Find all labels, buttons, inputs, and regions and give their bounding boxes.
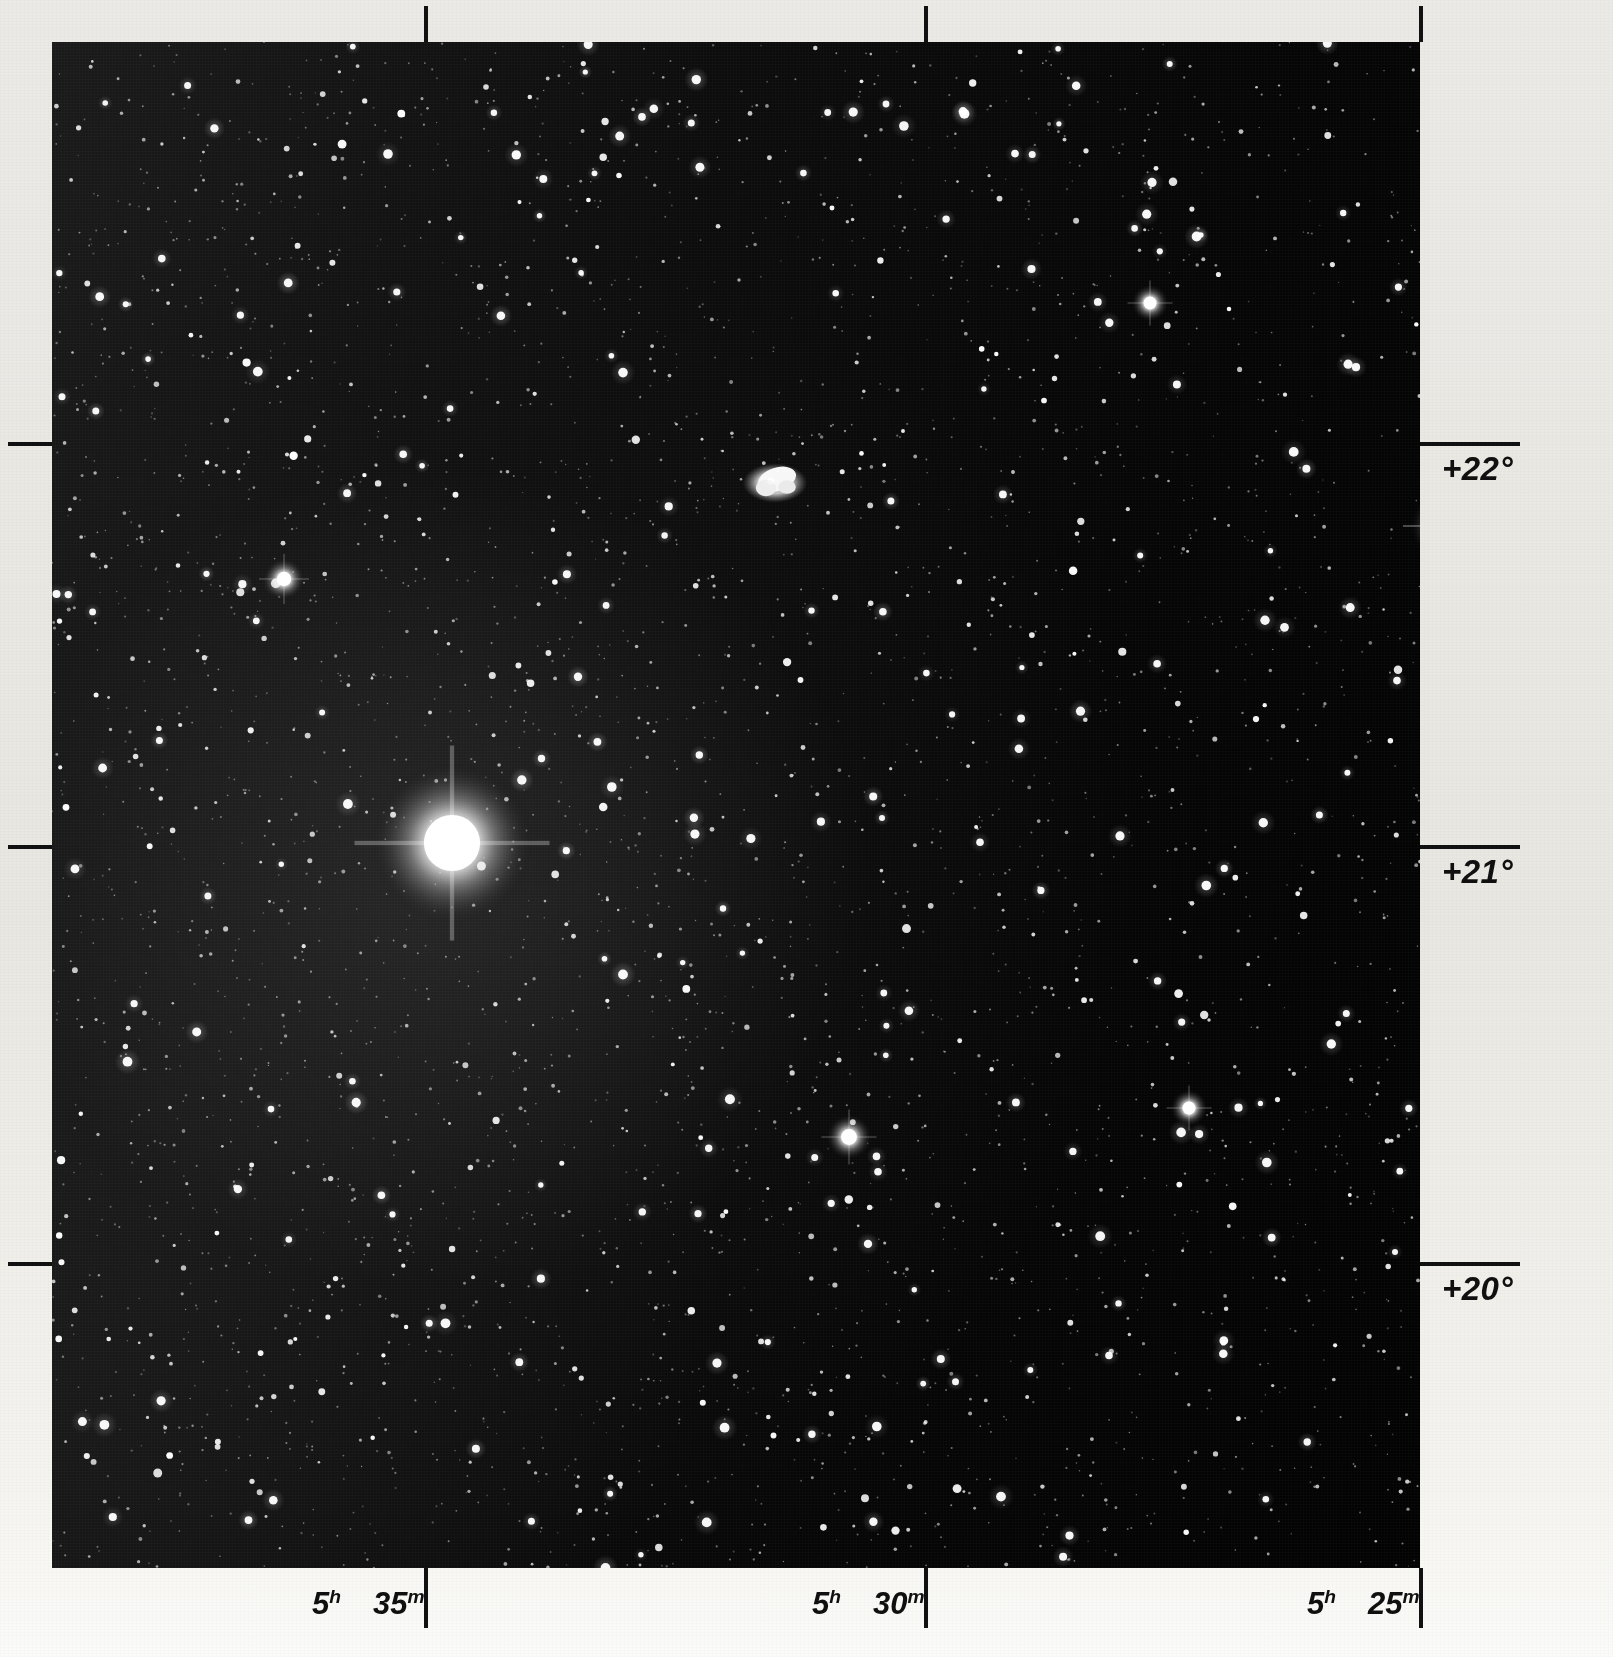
tick-right-dec-21: [1420, 845, 1520, 849]
tick-top-ra-5h35m: [424, 6, 428, 42]
ra-label-ra-5h35m: 5h35m: [312, 1586, 425, 1622]
tick-bottom-ra-5h35m: [424, 1568, 428, 1628]
tick-bottom-ra-5h25m: [1419, 1568, 1423, 1628]
tick-top-ra-5h30m: [924, 6, 928, 42]
dec-label-dec-22: +22°: [1442, 450, 1513, 488]
ra-label-ra-5h30m: 5h30m: [812, 1586, 925, 1622]
tick-top-ra-5h25m: [1419, 6, 1423, 42]
tick-right-dec-20: [1420, 1262, 1520, 1266]
ra-label-ra-5h25m: 5h25m: [1307, 1586, 1420, 1622]
tick-bottom-ra-5h30m: [924, 1568, 928, 1628]
plate-emulsion-grain: [52, 42, 1420, 1568]
tick-right-dec-22: [1420, 442, 1520, 446]
tick-left-dec-22: [8, 442, 52, 446]
tick-left-dec-20: [8, 1262, 52, 1266]
dec-label-dec-20: +20°: [1442, 1270, 1513, 1308]
dec-label-dec-21: +21°: [1442, 853, 1513, 891]
sky-plate-figure: +22°+21°+20° 5h35m5h30m5h25m: [0, 0, 1613, 1657]
photographic-plate: [52, 42, 1420, 1568]
tick-left-dec-21: [8, 845, 52, 849]
